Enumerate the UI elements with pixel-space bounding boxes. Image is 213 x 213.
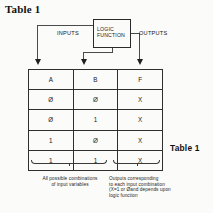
cell-b: 1 [73,110,118,130]
input-wire-a-horizontal [37,25,94,26]
cell-b: Ø [73,90,118,110]
figure-canvas: Table 1 LOGIC FUNCTION INPUTS OUTPUTS A … [0,0,213,213]
table-row: 1 Ø X [29,130,163,150]
outputs-brace [113,160,160,164]
cell-f: X [118,110,163,130]
inputs-brace-tick [69,163,70,166]
cell-b: Ø [73,130,118,150]
output-wire-vertical [139,33,140,61]
logic-function-label: LOGIC FUNCTION [97,26,125,38]
input-arrow-b [81,59,87,65]
inputs-annotation: All possible combinations of input varia… [31,176,109,187]
column-header-a: A [29,70,74,90]
column-header-f: F [118,70,163,90]
outputs-label: OUTPUTS [139,30,167,36]
outputs-annotation: Outputs corresponding to each input comb… [109,176,207,198]
truth-table: A B F Ø Ø X Ø 1 X 1 Ø X 1 1 X [28,69,163,171]
page-title: Table 1 [5,3,41,15]
logic-function-block: LOGIC FUNCTION [93,19,131,48]
table-header-row: A B F [29,70,163,90]
input-wire-a-vertical [37,25,38,61]
table-row: Ø 1 X [29,110,163,130]
figure-caption: Table 1 [170,143,200,153]
outputs-brace-tick [137,163,138,166]
input-arrow-a [35,59,41,65]
inputs-label: INPUTS [57,30,79,36]
cell-f: X [118,90,163,110]
inputs-brace [31,160,107,164]
cell-a: Ø [29,90,74,110]
column-header-b: B [73,70,118,90]
input-wire-b-horizontal [83,52,113,53]
cell-a: 1 [29,130,74,150]
output-arrow-f [137,59,143,65]
table-row: Ø Ø X [29,90,163,110]
cell-f: X [118,130,163,150]
cell-a: Ø [29,110,74,130]
